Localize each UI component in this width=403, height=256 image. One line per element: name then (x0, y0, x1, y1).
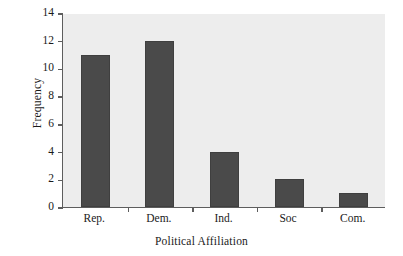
y-axis-tick-label: 6 (29, 117, 54, 129)
x-axis-tick-label: Rep. (59, 212, 129, 224)
bar-chart-figure: Frequency 02468101214 Political Affiliat… (0, 0, 403, 256)
x-axis-tick-label: Soc (253, 212, 323, 224)
y-axis-tick-label: 14 (29, 6, 54, 18)
bar (275, 179, 304, 207)
x-axis-title: Political Affiliation (0, 235, 403, 247)
y-axis-tick-label: 10 (29, 61, 54, 73)
y-axis-tick-mark (58, 96, 63, 98)
x-axis-tick-label: Com. (318, 212, 388, 224)
y-axis-tick-mark (58, 180, 63, 182)
x-axis-tick-label: Ind. (189, 212, 259, 224)
bar (210, 152, 239, 207)
bar (339, 193, 368, 207)
y-axis-tick-mark (58, 41, 63, 43)
y-axis-tick-mark (58, 207, 63, 209)
y-axis-tick-mark (58, 69, 63, 71)
y-axis-tick-mark (58, 152, 63, 154)
y-axis-tick-label: 4 (29, 145, 54, 157)
y-axis-tick-label: 0 (29, 200, 54, 212)
y-axis-tick-label: 8 (29, 89, 54, 101)
y-axis-tick-label: 12 (29, 34, 54, 46)
y-axis-tick-label: 2 (29, 172, 54, 184)
plot-area: 02468101214 (62, 14, 385, 208)
bar (145, 41, 174, 207)
x-axis-tick-label: Dem. (124, 212, 194, 224)
y-axis-tick-mark (58, 13, 63, 15)
bar (81, 55, 110, 207)
y-axis-tick-mark (58, 124, 63, 126)
